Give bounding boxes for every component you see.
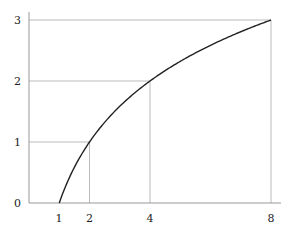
y-tick-label: 2 [14,75,21,88]
x-tick-label: 2 [86,212,93,225]
log-curve [59,20,271,203]
y-tick-label: 0 [14,197,21,210]
x-tick-label: 8 [268,212,275,225]
y-tick-labels: 0 1 2 3 [14,14,21,210]
x-tick-labels: 1 2 4 8 [56,212,275,225]
y-tick-label: 1 [14,136,21,149]
x-tick-label: 4 [147,212,154,225]
y-tick-label: 3 [14,14,21,27]
log2-chart: 1 2 4 8 0 1 2 3 [0,0,289,232]
reference-lines [29,20,271,203]
x-tick-label: 1 [56,212,63,225]
axes [29,12,281,203]
